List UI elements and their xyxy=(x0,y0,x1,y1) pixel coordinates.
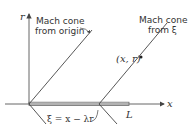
mach-cone-xi-label-1: Mach cone xyxy=(139,15,188,25)
r-axis-label: r xyxy=(20,11,26,22)
mach-cone-origin-label-2: from origin xyxy=(35,26,84,36)
mach-cone-origin xyxy=(29,30,92,124)
xi-equation-label: ξ = x − λr xyxy=(47,114,94,124)
mach-cone-origin-label-1: Mach cone xyxy=(36,16,85,26)
mach-cone-diagram: r x (x, r) Mach cone from origin Mach co… xyxy=(0,0,190,137)
mach-cone-xi-label-2: from ξ xyxy=(148,25,177,35)
mach-cone-xi xyxy=(99,23,167,124)
x-axis-label: x xyxy=(167,98,173,109)
point-label: (x, r) xyxy=(116,53,141,64)
length-label: L xyxy=(125,109,133,120)
